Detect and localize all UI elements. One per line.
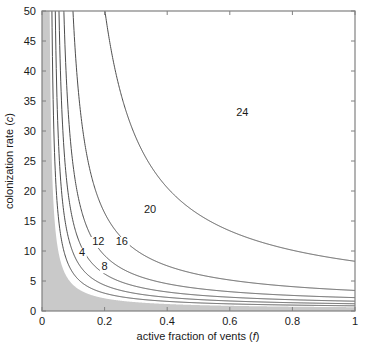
contour-label-4: 4 (79, 246, 85, 258)
x-tick-label-0.8: 0.8 (285, 315, 300, 327)
contour-label-20: 20 (144, 203, 156, 215)
y-tick-label-40: 40 (24, 65, 36, 77)
contour-label-16: 16 (116, 235, 128, 247)
y-tick-label-20: 20 (24, 185, 36, 197)
x-tick-label-0: 0 (39, 315, 45, 327)
y-tick-label-10: 10 (24, 245, 36, 257)
y-tick-label-5: 5 (30, 275, 36, 287)
x-tick-label-0.6: 0.6 (222, 315, 237, 327)
y-tick-label-15: 15 (24, 215, 36, 227)
y-tick-label-45: 45 (24, 35, 36, 47)
x-tick-label-1: 1 (352, 315, 358, 327)
y-axis-title: colonization rate (c) (3, 113, 15, 209)
contour-plot-figure: 4812162024 00.20.40.60.81 05101520253035… (0, 0, 367, 346)
contour-label-8: 8 (102, 260, 108, 272)
x-tick-label-0.2: 0.2 (97, 315, 112, 327)
contour-label-12: 12 (92, 235, 104, 247)
x-tick-label-0.4: 0.4 (160, 315, 175, 327)
y-tick-label-35: 35 (24, 95, 36, 107)
y-tick-label-30: 30 (24, 125, 36, 137)
contour-label-24: 24 (236, 106, 248, 118)
y-tick-label-25: 25 (24, 155, 36, 167)
x-axis-title: active fraction of vents (f) (137, 330, 260, 342)
y-tick-label-50: 50 (24, 5, 36, 17)
y-tick-label-0: 0 (30, 305, 36, 317)
